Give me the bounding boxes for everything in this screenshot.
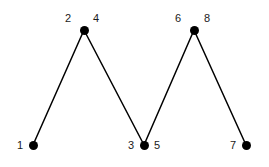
label-2: 2	[65, 13, 71, 24]
edge-v3-v4	[144, 30, 194, 145]
label-6: 6	[175, 13, 181, 24]
edge-layer	[0, 0, 269, 167]
top-left-vertex	[80, 26, 89, 35]
label-4: 4	[93, 13, 99, 24]
top-right-vertex	[190, 26, 199, 35]
edge-v4-v5	[194, 30, 246, 145]
bottom-left-vertex	[29, 141, 38, 150]
label-3: 3	[128, 140, 134, 151]
zigzag-graph-diagram: 12435687	[0, 0, 269, 167]
label-1: 1	[17, 140, 23, 151]
edge-v1-v2	[33, 30, 84, 145]
label-8: 8	[204, 13, 210, 24]
label-7: 7	[230, 140, 236, 151]
label-5: 5	[154, 140, 160, 151]
edge-v2-v3	[84, 30, 144, 145]
bottom-right-vertex	[242, 141, 251, 150]
bottom-middle-vertex	[140, 141, 149, 150]
